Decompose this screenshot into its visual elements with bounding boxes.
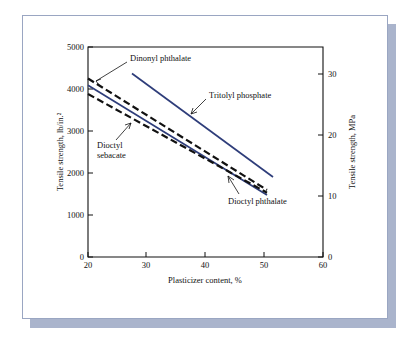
- x-axis-tick-labels: 20 30 40 50 60: [84, 260, 328, 270]
- x-tick-40: 40: [201, 260, 210, 270]
- annotation-dioctyl-sebacate-line1: Dioctyl: [97, 140, 123, 150]
- leader-tritolyl-phosphate: [191, 99, 206, 114]
- leader-dioctyl-sebacate: [116, 123, 131, 140]
- y-right-tick-30: 30: [328, 69, 337, 79]
- x-tick-60: 60: [319, 260, 328, 270]
- plot-area: 5000 4000 3000 2000 1000 0 0 10 20 30: [0, 0, 404, 338]
- x-tick-30: 30: [142, 260, 151, 270]
- y-tick-4000: 4000: [67, 84, 84, 94]
- y-tick-2000: 2000: [67, 168, 84, 178]
- y-axis-right-tick-labels: 0 10 20 30: [328, 69, 337, 262]
- x-tick-20: 20: [84, 260, 93, 270]
- annotation-tritolyl-phosphate: Tritolyl phosphate: [209, 90, 271, 100]
- x-axis-ticks: [88, 252, 323, 257]
- leader-arrowhead-dioctyl-phthalate: [228, 176, 234, 183]
- y-right-tick-10: 10: [328, 191, 337, 201]
- y-axis-left-tick-labels: 5000 4000 3000 2000 1000 0: [67, 42, 84, 262]
- tensile-strength-vs-plasticizer-chart: 5000 4000 3000 2000 1000 0 0 10 20 30: [0, 0, 404, 338]
- leader-dioctyl-phthalate: [228, 176, 239, 194]
- y-right-tick-0: 0: [328, 252, 332, 262]
- y-tick-1000: 1000: [67, 210, 84, 220]
- y-axis-right-title: Tensile strength, MPa: [347, 115, 357, 189]
- leader-arrowhead-dinonyl: [96, 79, 101, 85]
- y-axis-right-ticks: [318, 74, 323, 257]
- x-axis-title: Plasticizer content, %: [168, 275, 242, 285]
- y-right-tick-20: 20: [328, 130, 337, 140]
- annotation-dioctyl-sebacate-line2: sebacate: [97, 150, 126, 160]
- leader-dinonyl-phthalate: [96, 62, 127, 81]
- y-axis-left-title: Tensile strength, lb/in.²: [55, 112, 65, 191]
- figure-root: 5000 4000 3000 2000 1000 0 0 10 20 30: [0, 0, 404, 338]
- y-tick-5000: 5000: [67, 42, 84, 52]
- annotation-dinonyl-phthalate: Dinonyl phthalate: [130, 53, 191, 63]
- annotation-dioctyl-phthalate: Dioctyl phthalate: [228, 196, 287, 206]
- y-tick-3000: 3000: [67, 126, 84, 136]
- x-tick-50: 50: [260, 260, 269, 270]
